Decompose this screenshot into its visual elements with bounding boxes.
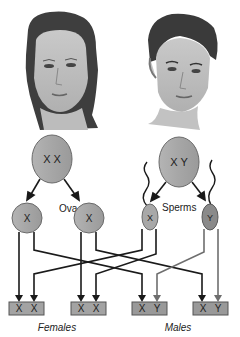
svg-text:X: X (93, 303, 100, 314)
sperms-label: Sperms (162, 202, 196, 213)
svg-text:X: X (139, 303, 146, 314)
svg-text:Y: Y (154, 303, 161, 314)
sperm-y-tail (209, 160, 215, 205)
svg-text:X: X (200, 303, 207, 314)
offspring-box-3: X Y (132, 302, 167, 315)
fertilization-lines (19, 229, 218, 296)
females-label: Females (38, 322, 76, 333)
female-face-illustration (26, 12, 98, 131)
sperm-x-tail (143, 162, 149, 206)
svg-text:Y: Y (207, 213, 213, 223)
ovum-1: X (12, 203, 42, 233)
svg-text:X: X (31, 303, 38, 314)
sperm-x: X (142, 204, 158, 230)
male-chromosomes: X Y (170, 156, 188, 168)
male-face-illustration (148, 14, 218, 130)
arrowheads (15, 295, 222, 302)
svg-text:X: X (147, 213, 153, 223)
sperm-y: Y (202, 204, 218, 230)
male-parent-cell: X Y (159, 137, 199, 187)
svg-text:X: X (86, 213, 93, 224)
svg-text:X: X (24, 213, 31, 224)
offspring-box-2: X X (71, 302, 106, 315)
female-chromosomes: X X (43, 153, 61, 165)
males-label: Males (165, 322, 192, 333)
sex-determination-diagram: X X X Y Ova Sperms X X X Y (0, 0, 240, 337)
ovum-2: X (74, 203, 104, 233)
svg-text:Y: Y (215, 303, 222, 314)
female-parent-cell: X X (32, 135, 72, 183)
offspring-box-1: X X (9, 302, 44, 315)
offspring-box-4: X Y (193, 302, 228, 315)
svg-text:X: X (16, 303, 23, 314)
svg-text:X: X (78, 303, 85, 314)
